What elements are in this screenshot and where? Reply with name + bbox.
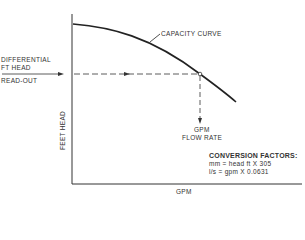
readout-label: READ-OUT [1, 78, 37, 85]
input-arrowhead-icon [58, 72, 64, 76]
y-axis-label: FEET HEAD [60, 111, 67, 150]
differential-label-line2: FT HEAD [1, 65, 31, 72]
capacity-curve-label: CAPACITY CURVE [161, 31, 222, 38]
flow-rate-label: FLOW RATE [182, 135, 222, 142]
conversion-ls: l/s = gpm X 0.0631 [209, 169, 269, 176]
conversion-title: CONVERSION FACTORS: [209, 152, 297, 159]
x-axis-label: GPM [176, 189, 192, 196]
gpm-label: GPM [194, 127, 210, 134]
flow-arrowhead-icon [198, 118, 202, 124]
conversion-mm: mm = head ft X 305 [209, 161, 271, 168]
differential-label-line1: DIFFERENTIAL [1, 57, 51, 64]
curve-label-leader [150, 34, 160, 42]
dashed-arrowhead-icon [124, 72, 130, 76]
operating-point [198, 72, 202, 76]
